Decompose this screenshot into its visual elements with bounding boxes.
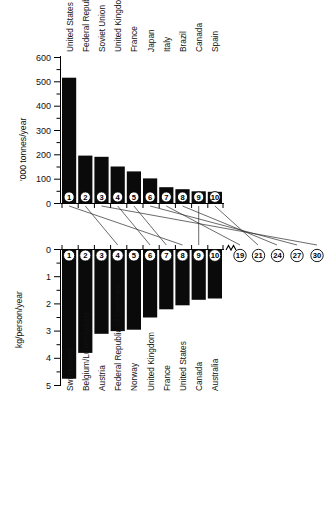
bottom-chart-y-ticks [54, 250, 61, 386]
bottom-ytick-0: 0 [46, 245, 51, 255]
top-rank-7: 7 [164, 193, 168, 202]
top-chart: 0 100 200 300 400 500 600 '000 tonnes/ye… [18, 0, 224, 209]
bottom-chart: 0 1 2 3 4 5 kg/person/year [14, 245, 323, 392]
top-cat-france: France [129, 26, 139, 52]
top-rank-9: 9 [197, 193, 201, 202]
top-ytick-0: 0 [46, 199, 51, 209]
top-chart-rank-badges: 1 2 3 4 5 6 7 8 9 10 [64, 192, 220, 203]
bottom-cat-canada: Canada [194, 362, 204, 391]
top-chart-y-ticks [54, 58, 61, 204]
top-ytick-500: 500 [36, 77, 51, 87]
bottom-chart-rank-badges: 1 2 3 4 5 6 7 8 9 10 [64, 250, 221, 262]
top-cat-canada: Canada [194, 23, 204, 52]
bottom-rank-7: 7 [164, 251, 168, 260]
top-ytick-200: 200 [36, 150, 51, 160]
bottom-rank-6: 6 [148, 251, 152, 260]
bottom-ytick-2: 2 [46, 299, 51, 309]
top-cat-spain: Spain [210, 30, 220, 52]
bottom-bar-3 [94, 250, 108, 334]
bottom-ytick-3: 3 [46, 326, 51, 336]
bottom-ytick-4: 4 [46, 353, 51, 363]
top-cat-soviet-union: Soviet Union [97, 5, 107, 52]
top-cat-united-states: United States [65, 2, 75, 52]
bottom-cat-australia: Australia [210, 358, 220, 391]
rank-connector-lines [69, 206, 317, 245]
bottom-cat-switzerland: Switzerland [65, 348, 75, 391]
top-rank-10: 10 [211, 193, 219, 202]
bottom-rank-10: 10 [211, 251, 219, 260]
bottom-cat-france: France [162, 365, 172, 391]
top-cat-japan: Japan [146, 29, 156, 52]
top-chart-ylabel: '000 tonnes/year [18, 118, 28, 181]
linked-bar-charts: 0 100 200 300 400 500 600 '000 tonnes/ye… [0, 0, 335, 526]
top-rank-6: 6 [148, 193, 152, 202]
top-cat-united-kingdom: United Kingdom [113, 0, 123, 52]
bottom-rank-2: 2 [83, 251, 87, 260]
top-ytick-100: 100 [36, 174, 51, 184]
top-rank-2: 2 [83, 193, 87, 202]
bottom-extra-rank-24: 24 [273, 251, 282, 260]
axis-break-icon [226, 246, 236, 251]
bottom-rank-8: 8 [180, 251, 184, 260]
bottom-rank-9: 9 [197, 251, 201, 260]
bottom-ytick-1: 1 [46, 272, 51, 282]
bottom-extra-rank-21: 21 [254, 251, 263, 260]
top-ytick-300: 300 [36, 126, 51, 136]
bottom-cat-united-kingdom: United Kingdom [146, 332, 156, 391]
top-rank-3: 3 [99, 193, 103, 202]
bottom-cat-norway: Norway [129, 362, 139, 391]
top-chart-category-labels: United States Federal Republic of German… [65, 0, 221, 52]
bottom-chart-zeroline-ticks [62, 245, 223, 250]
bottom-extra-rank-30: 30 [313, 251, 321, 260]
bottom-cat-frg: Federal Republic of Germany [113, 282, 123, 391]
top-ytick-400: 400 [36, 101, 51, 111]
bottom-chart-ylabel: kg/person/year [14, 291, 24, 348]
top-cat-italy: Italy [162, 36, 172, 52]
bottom-cat-united-states: United States [178, 341, 188, 391]
top-bar-1 [62, 78, 76, 204]
bottom-ytick-5: 5 [46, 381, 51, 391]
top-cat-frg: Federal Republic of Germany [81, 0, 91, 52]
bottom-cat-belgium-lux: Belgium/Luxembourg [81, 312, 91, 391]
top-ytick-600: 600 [36, 53, 51, 63]
bottom-extra-rank-27: 27 [293, 251, 301, 260]
bottom-chart-extra-rank-badges: 19 21 24 27 30 [234, 249, 323, 261]
top-cat-brazil: Brazil [178, 31, 188, 52]
top-rank-8: 8 [180, 193, 184, 202]
bottom-extra-rank-19: 19 [236, 251, 244, 260]
bottom-cat-austria: Austria [97, 365, 107, 391]
figure-container: 0 100 200 300 400 500 600 '000 tonnes/ye… [0, 0, 335, 526]
bottom-rank-3: 3 [99, 251, 103, 260]
